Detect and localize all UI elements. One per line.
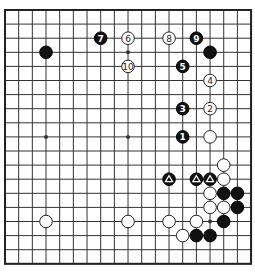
stone-disc <box>217 173 230 186</box>
stone-disc <box>204 131 217 144</box>
white-stone[interactable] <box>217 201 230 214</box>
stone-disc <box>204 229 217 242</box>
black-stone[interactable] <box>231 201 244 214</box>
black-stone[interactable] <box>190 173 203 186</box>
white-stone[interactable] <box>40 215 53 228</box>
stone-disc <box>217 159 230 172</box>
star-point <box>126 50 130 54</box>
move-number: 1 <box>180 132 186 142</box>
black-stone[interactable] <box>163 173 176 186</box>
move-number: 5 <box>180 62 186 72</box>
white-stone[interactable] <box>204 131 217 144</box>
white-stone[interactable] <box>217 173 230 186</box>
white-stone[interactable] <box>190 215 203 228</box>
white-stone[interactable] <box>176 229 189 242</box>
black-stone[interactable] <box>204 229 217 242</box>
stone-disc <box>190 215 203 228</box>
white-stone[interactable]: 6 <box>122 32 135 45</box>
black-stone[interactable] <box>190 229 203 242</box>
stone-disc <box>204 201 217 214</box>
black-stone[interactable]: 1 <box>176 131 189 144</box>
black-stone[interactable] <box>204 46 217 59</box>
stone-disc <box>217 201 230 214</box>
move-number: 10 <box>122 62 134 72</box>
move-number: 8 <box>166 34 172 44</box>
go-board[interactable]: 12345678910 <box>0 0 255 273</box>
stone-disc <box>231 201 244 214</box>
stone-disc <box>176 229 189 242</box>
white-stone[interactable] <box>217 159 230 172</box>
white-stone[interactable]: 4 <box>204 74 217 87</box>
stone-disc <box>217 187 230 200</box>
black-stone[interactable] <box>217 187 230 200</box>
black-stone[interactable]: 9 <box>190 32 203 45</box>
star-point <box>44 135 48 139</box>
stone-disc <box>163 215 176 228</box>
stone-disc <box>190 229 203 242</box>
black-stone[interactable] <box>204 173 217 186</box>
white-stone[interactable] <box>204 187 217 200</box>
star-point <box>208 220 212 224</box>
stone-disc <box>40 46 53 59</box>
move-number: 3 <box>180 104 186 114</box>
white-stone[interactable] <box>122 215 135 228</box>
move-number: 6 <box>125 34 131 44</box>
move-number: 7 <box>98 34 104 44</box>
black-stone[interactable] <box>40 46 53 59</box>
stone-disc <box>122 215 135 228</box>
stone-disc <box>204 187 217 200</box>
stone-disc <box>40 215 53 228</box>
move-number: 2 <box>207 104 213 114</box>
black-stone[interactable]: 3 <box>176 102 189 115</box>
white-stone[interactable]: 2 <box>204 102 217 115</box>
black-stone[interactable] <box>231 187 244 200</box>
stone-disc <box>217 215 230 228</box>
black-stone[interactable]: 5 <box>176 60 189 73</box>
white-stone[interactable]: 10 <box>122 60 135 73</box>
move-number: 9 <box>193 34 199 44</box>
white-stone[interactable]: 8 <box>163 32 176 45</box>
white-stone[interactable] <box>163 215 176 228</box>
black-stone[interactable] <box>217 215 230 228</box>
black-stone[interactable]: 7 <box>94 32 107 45</box>
star-point <box>126 135 130 139</box>
stone-disc <box>204 46 217 59</box>
stone-disc <box>231 187 244 200</box>
white-stone[interactable] <box>204 201 217 214</box>
move-number: 4 <box>207 76 213 86</box>
